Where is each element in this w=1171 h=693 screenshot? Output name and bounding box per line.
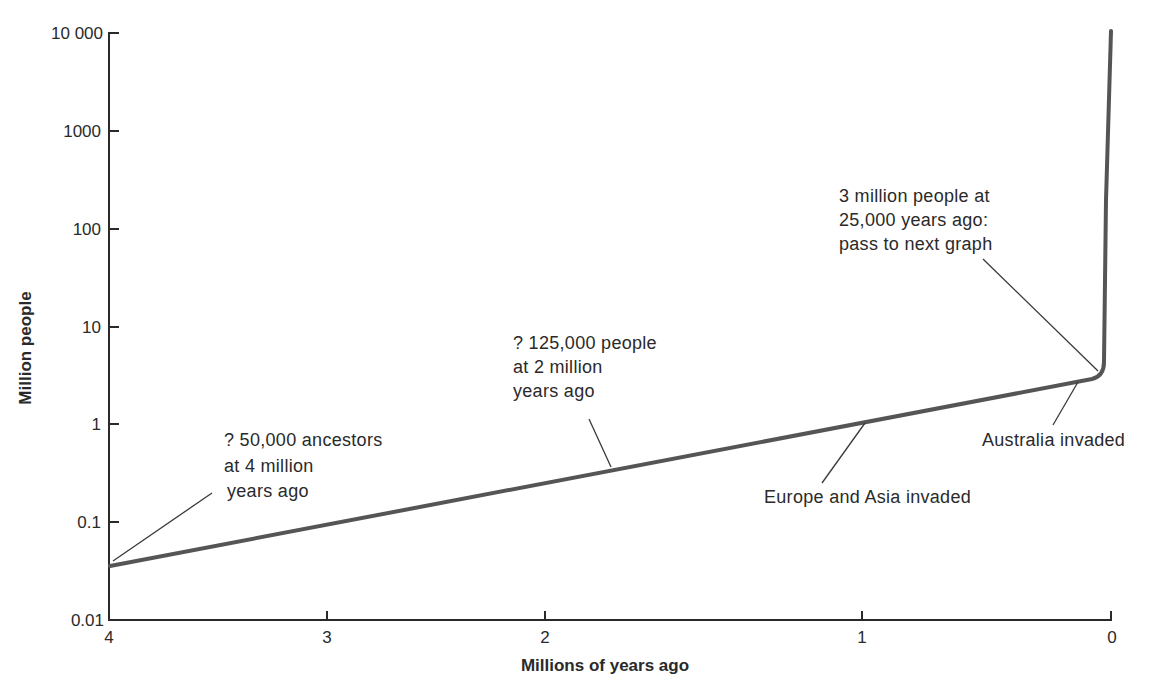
- y-axis-title: Million people: [16, 291, 35, 404]
- svg-text:3 million people at: 3 million people at: [839, 186, 990, 206]
- y-tick-100: 100: [73, 220, 101, 239]
- y-tick-10: 10: [82, 318, 101, 337]
- svg-text:at 2 million: at 2 million: [513, 357, 603, 377]
- svg-text:years ago: years ago: [513, 381, 595, 401]
- x-tick-4: 4: [104, 628, 113, 647]
- y-axis: [109, 32, 119, 621]
- annotation-australia: Australia invaded: [982, 430, 1125, 450]
- annotation-2my: ? 125,000 people at 2 million years ago: [513, 333, 657, 401]
- x-tick-2: 2: [540, 628, 549, 647]
- y-tick-10000: 10 000: [51, 24, 103, 43]
- annotation-europe: Europe and Asia invaded: [764, 487, 971, 507]
- svg-text:years ago: years ago: [227, 481, 309, 501]
- y-tick-0-01: 0.01: [71, 611, 104, 630]
- x-tick-1: 1: [857, 628, 866, 647]
- x-tick-0: 0: [1107, 628, 1116, 647]
- x-tick-3: 3: [322, 628, 331, 647]
- y-tick-0-1: 0.1: [77, 513, 101, 532]
- svg-text:? 125,000 people: ? 125,000 people: [513, 333, 657, 353]
- leader-25k: [983, 259, 1098, 371]
- svg-text:at 4 million: at 4 million: [224, 456, 314, 476]
- population-chart: 10 000 1000 100 10 1 0.1 0.01 4 3 2 1 0 …: [0, 0, 1171, 693]
- annotation-25k: 3 million people at 25,000 years ago: pa…: [839, 186, 993, 254]
- y-tick-1: 1: [92, 415, 101, 434]
- y-tick-labels: 10 000 1000 100 10 1 0.1 0.01: [51, 24, 104, 630]
- y-tick-1000: 1000: [63, 122, 101, 141]
- leader-2my: [589, 419, 611, 467]
- annotation-4my: ? 50,000 ancestors at 4 million years ag…: [224, 430, 383, 501]
- x-tick-labels: 4 3 2 1 0: [104, 628, 1116, 647]
- leader-europe: [822, 423, 865, 483]
- x-axis-title: Millions of years ago: [521, 656, 689, 675]
- svg-text:pass to next graph: pass to next graph: [839, 234, 993, 254]
- svg-text:? 50,000 ancestors: ? 50,000 ancestors: [224, 430, 383, 450]
- leader-lines: [113, 259, 1098, 561]
- x-axis: [108, 611, 1112, 620]
- svg-text:25,000 years ago:: 25,000 years ago:: [839, 210, 988, 230]
- leader-australia: [1053, 382, 1078, 425]
